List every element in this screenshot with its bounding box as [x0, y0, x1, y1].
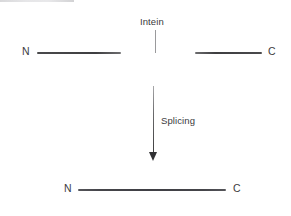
product-n-terminus-label: N	[64, 183, 72, 194]
precursor-n-terminus-label: N	[22, 46, 30, 57]
splicing-arrow-shaft	[153, 86, 154, 155]
n-extein-segment	[37, 52, 121, 54]
intein-leader-line	[155, 30, 156, 53]
splicing-label: Splicing	[161, 116, 195, 126]
splicing-arrow-head-icon	[149, 152, 157, 161]
precursor-c-terminus-label: C	[268, 46, 276, 57]
protein-splicing-diagram: Intein N C Splicing N C	[0, 0, 291, 216]
c-extein-segment	[195, 52, 262, 54]
spliced-product-line	[78, 189, 226, 191]
intein-label: Intein	[140, 17, 164, 27]
intein-segment	[0, 0, 74, 2]
product-c-terminus-label: C	[233, 183, 241, 194]
